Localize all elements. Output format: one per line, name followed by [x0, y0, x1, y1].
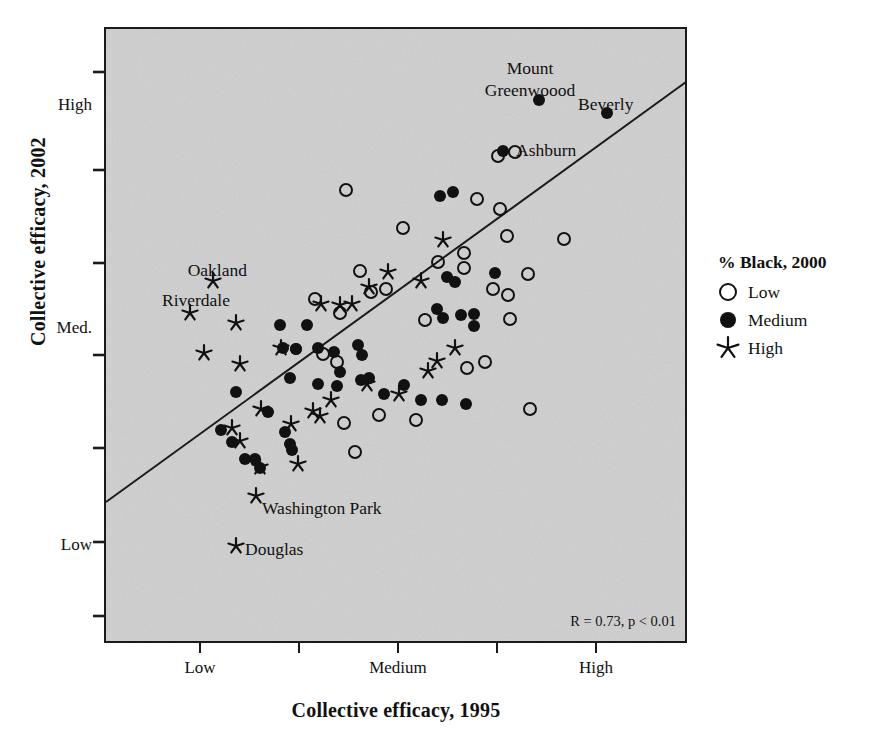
legend-title: % Black, 2000	[718, 253, 826, 271]
plot-panel	[105, 28, 686, 642]
annotation-oakland: Oakland	[188, 261, 247, 279]
legend-marker-glyphs	[718, 284, 739, 357]
annotation-riverdale: Riverdale	[162, 291, 230, 309]
annotation-douglas: Douglas	[245, 540, 303, 558]
x-axis-title: Collective efficacy, 1995	[292, 700, 501, 721]
legend-item-medium-label: Medium	[748, 311, 807, 329]
annotation-ashburn: Ashburn	[516, 141, 576, 159]
annotation-washington-park: Washington Park	[262, 499, 382, 517]
scatter-plot-figure: Collective efficacy, 2002 Collective eff…	[0, 0, 878, 752]
y-tick-label-high: High	[58, 96, 92, 114]
y-tick-label-med: Med.	[57, 319, 92, 337]
y-axis-title: Collective efficacy, 2002	[28, 137, 49, 346]
annotation-beverly: Beverly	[578, 95, 633, 113]
annotation-mount-greenwoood-line1: Mount	[507, 59, 554, 77]
legend-item-high-label: High	[748, 339, 783, 357]
x-tick-label-high: High	[579, 659, 613, 677]
y-tick-label-low: Low	[61, 536, 92, 554]
x-tick-label-medium: Medium	[369, 659, 427, 677]
x-tick-label-low: Low	[184, 659, 215, 677]
y-axis-ticks	[93, 72, 105, 616]
legend-item-low-label: Low	[748, 283, 780, 301]
correlation-annotation: R = 0.73, p < 0.01	[570, 614, 676, 629]
plot-canvas	[0, 0, 878, 752]
annotation-mount-greenwoood-line2: Greenwoood	[485, 81, 575, 99]
x-axis-ticks	[200, 642, 596, 653]
